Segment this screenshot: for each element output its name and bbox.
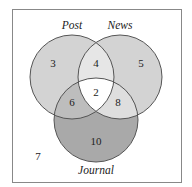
region-news-journal: 8: [115, 96, 121, 108]
region-all-three: 2: [93, 86, 99, 98]
label-post: Post: [61, 19, 83, 31]
region-none: 7: [35, 150, 41, 162]
label-journal: Journal: [78, 164, 114, 176]
region-post-journal: 6: [69, 96, 75, 108]
region-post-news: 4: [93, 57, 99, 69]
region-post-only: 3: [50, 57, 56, 69]
venn-diagram: Post News Journal 3 5 4 2 6 8 10 7: [0, 0, 192, 187]
region-journal-only: 10: [91, 135, 103, 147]
label-news: News: [107, 19, 133, 31]
region-news-only: 5: [138, 57, 144, 69]
